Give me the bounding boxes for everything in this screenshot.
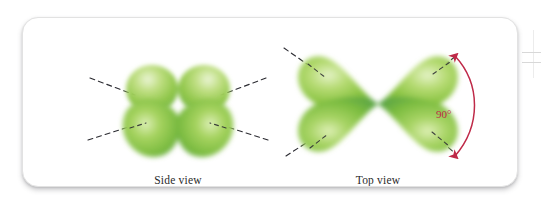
side-view-front-lobes — [123, 100, 234, 157]
lobe-lower-left — [123, 100, 180, 157]
page-edge-rule-1 — [522, 52, 541, 53]
figure-stage: Side view — [23, 18, 517, 186]
page-edge-divider — [533, 30, 534, 78]
side-view-panel: Side view — [83, 38, 273, 186]
angle-arc — [455, 56, 475, 156]
side-view-orbital-graphic — [83, 38, 273, 186]
lobe-bottom-left — [298, 97, 378, 152]
figure-card: Side view — [22, 17, 518, 187]
figure-root: Side view — [0, 0, 541, 207]
angle-label-wrap: 90° — [436, 104, 451, 122]
top-view-label: Top view — [278, 174, 478, 186]
top-view-lobes — [298, 56, 458, 152]
page-edge-rule-2 — [522, 62, 541, 63]
lobe-lower-right — [176, 100, 233, 157]
angle-label: 90° — [436, 108, 451, 120]
top-view-orbital-graphic — [278, 26, 493, 186]
top-view-panel: 90° Top view — [278, 26, 493, 186]
side-view-label: Side view — [83, 174, 273, 186]
